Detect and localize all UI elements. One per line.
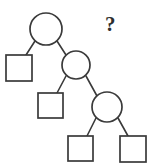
diagram-canvas: ? [0,0,160,166]
tree-diagram [0,0,160,166]
edge-circle3-square4 [118,118,128,136]
edge-circle2-circle3 [86,76,97,96]
question-mark-annotation: ? [105,14,116,35]
node-square-1 [6,55,32,81]
node-circle-2 [62,51,90,79]
node-square-2 [38,93,63,118]
node-square-3 [68,136,93,161]
node-circle-3 [92,92,122,122]
node-group [6,13,146,162]
edge-circle1-square1 [26,41,35,55]
node-square-4 [120,136,146,162]
edge-circle3-square3 [87,118,96,136]
edge-circle1-circle2 [57,41,66,55]
node-circle-1 [30,13,62,45]
edge-circle2-square2 [57,76,66,93]
